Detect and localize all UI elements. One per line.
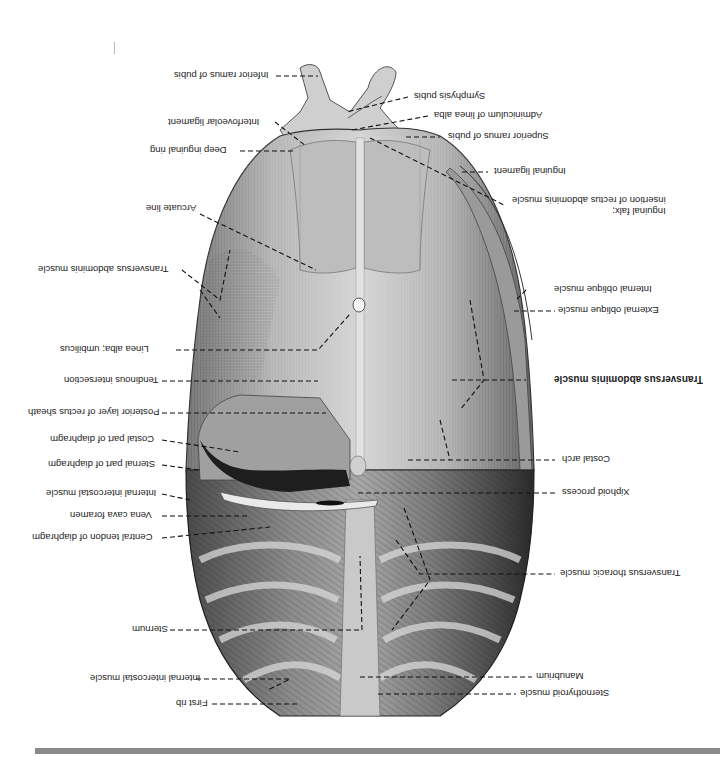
label-interfoveolar-ligament: Interfoveolar ligament [168,117,259,128]
label-inferior-ramus-of-pubis: Inferior ramus of pubis [174,70,269,81]
label-transversus-thoracic-muscle: Transversus thoracic muscle [560,568,681,579]
label-external-oblique-muscle: External oblique muscle [558,305,659,316]
label-transversus-abdominis-muscle-left: Transversus abdominis muscle [38,264,169,275]
label-central-tendon-of-diaphragm: Central tendon of diaphragm [32,532,152,543]
label-inguinal-ligament: Inguinal ligament [494,166,566,177]
label-superior-ramus-of-pubis: Superior ramus of pubis [448,131,549,142]
label-adminiculum-of-linea-alba: Adminiculum of linea alba [434,110,542,121]
label-deep-inguinal-ring: Deep inguinal ring [150,145,227,156]
label-posterior-layer-of-rectus-sheath: Posterior layer of rectus sheath [28,407,159,418]
label-vena-cava-foramen: Vena cava foramen [70,510,152,521]
label-costal-part-of-diaphragm: Costal part of diaphragm [50,434,154,445]
pencil-mark [114,42,115,54]
label-costal-arch: Costal arch [562,454,610,465]
label-inguinal-falx: Inguinal falx; insertion of rectus abdom… [512,195,666,217]
anatomy-figure: Inferior ramus of pubis Interfoveolar li… [0,0,720,757]
label-internal-intercostal-muscle-upper: Internal intercostal muscle [46,488,156,499]
label-transversus-abdominis-muscle-right: Transversus abdominis muscle [554,374,703,385]
label-sternum: Sternum [132,624,168,635]
label-xiphoid-process: Xiphoid process [562,487,630,498]
label-internal-intercostal-muscle-lower: Internal intercostal muscle [90,673,200,684]
label-symphysis-pubis: Symphysis pubis [414,91,485,102]
label-linea-alba-umbilicus: Linea alba; umbilicus [60,344,149,355]
label-internal-oblique-muscle: Internal oblique muscle [554,284,652,295]
label-manubrium: Manubrium [536,671,584,682]
label-first-rib: First rib [176,698,208,709]
bottom-divider-bar [35,748,720,754]
label-sternal-part-of-diaphragm: Sternal part of diaphragm [48,459,155,470]
label-arcuate-line: Arcuate line [146,203,196,214]
label-sternothyroid-muscle: Sternothyroid muscle [520,688,609,699]
label-tendinous-intersection: Tendinous intersection [64,375,159,386]
